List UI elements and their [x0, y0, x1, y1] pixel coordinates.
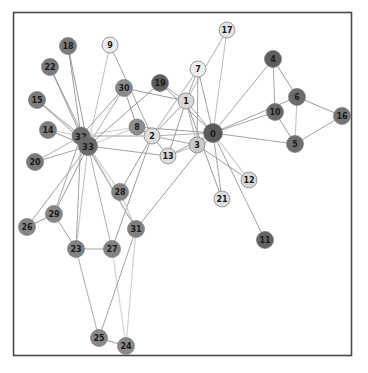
node-circle[interactable] — [19, 219, 36, 236]
graph-node-14[interactable]: 14 — [40, 122, 57, 139]
graph-node-24[interactable]: 24 — [118, 338, 135, 355]
node-circle[interactable] — [104, 241, 121, 258]
graph-node-8[interactable]: 8 — [129, 119, 145, 135]
node-circle[interactable] — [129, 119, 145, 135]
graph-node-9[interactable]: 9 — [102, 37, 118, 53]
node-circle[interactable] — [29, 92, 46, 109]
node-circle[interactable] — [68, 241, 85, 258]
graph-node-19[interactable]: 19 — [152, 75, 169, 92]
node-circle[interactable] — [91, 330, 108, 347]
node-circle[interactable] — [219, 22, 235, 38]
graph-node-5[interactable]: 5 — [287, 136, 304, 153]
node-circle[interactable] — [160, 148, 176, 164]
graph-node-21[interactable]: 21 — [214, 191, 230, 207]
graph-node-22[interactable]: 22 — [42, 59, 59, 76]
graph-node-11[interactable]: 11 — [257, 232, 274, 249]
network-graph-canvas[interactable]: 0123456789101112131415161718192021222324… — [0, 0, 368, 373]
graph-node-27[interactable]: 27 — [104, 241, 121, 258]
node-circle[interactable] — [112, 184, 129, 201]
node-circle[interactable] — [178, 93, 194, 109]
graph-node-33[interactable]: 33 — [79, 137, 98, 156]
node-circle[interactable] — [144, 128, 160, 144]
graph-node-16[interactable]: 16 — [334, 108, 351, 125]
graph-node-17[interactable]: 17 — [219, 22, 235, 38]
graph-node-6[interactable]: 6 — [289, 89, 306, 106]
graph-node-25[interactable]: 25 — [91, 330, 108, 347]
graph-node-3[interactable]: 3 — [189, 137, 205, 153]
graph-node-30[interactable]: 30 — [116, 80, 133, 97]
graph-node-20[interactable]: 20 — [27, 154, 44, 171]
graph-node-10[interactable]: 10 — [267, 104, 284, 121]
node-circle[interactable] — [287, 136, 304, 153]
node-circle[interactable] — [267, 104, 284, 121]
node-circle[interactable] — [152, 75, 169, 92]
graph-node-23[interactable]: 23 — [68, 241, 85, 258]
node-circle[interactable] — [204, 124, 223, 143]
graph-node-26[interactable]: 26 — [19, 219, 36, 236]
graph-node-2[interactable]: 2 — [144, 128, 160, 144]
node-circle[interactable] — [190, 61, 206, 77]
graph-node-31[interactable]: 31 — [128, 221, 145, 238]
node-circle[interactable] — [334, 108, 351, 125]
node-circle[interactable] — [189, 137, 205, 153]
node-circle[interactable] — [60, 38, 77, 55]
node-circle[interactable] — [257, 232, 274, 249]
graph-node-7[interactable]: 7 — [190, 61, 206, 77]
node-circle[interactable] — [289, 89, 306, 106]
node-circle[interactable] — [42, 59, 59, 76]
graph-node-15[interactable]: 15 — [29, 92, 46, 109]
node-circle[interactable] — [102, 37, 118, 53]
node-circle[interactable] — [46, 206, 63, 223]
graph-node-1[interactable]: 1 — [178, 93, 194, 109]
network-graph-figure: 0123456789101112131415161718192021222324… — [0, 0, 368, 373]
node-circle[interactable] — [40, 122, 57, 139]
node-circle[interactable] — [79, 137, 98, 156]
graph-node-13[interactable]: 13 — [160, 148, 176, 164]
graph-node-4[interactable]: 4 — [265, 51, 282, 68]
node-circle[interactable] — [128, 221, 145, 238]
graph-node-0[interactable]: 0 — [204, 124, 223, 143]
graph-node-12[interactable]: 12 — [241, 172, 257, 188]
graph-node-29[interactable]: 29 — [46, 206, 63, 223]
node-circle[interactable] — [214, 191, 230, 207]
node-circle[interactable] — [241, 172, 257, 188]
graph-node-18[interactable]: 18 — [60, 38, 77, 55]
node-circle[interactable] — [116, 80, 133, 97]
node-circle[interactable] — [265, 51, 282, 68]
graph-node-28[interactable]: 28 — [112, 184, 129, 201]
node-circle[interactable] — [118, 338, 135, 355]
node-circle[interactable] — [27, 154, 44, 171]
